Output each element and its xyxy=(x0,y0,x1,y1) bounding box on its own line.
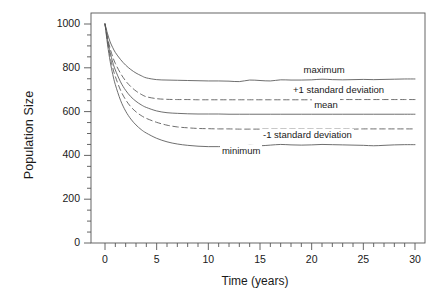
axes-layer xyxy=(84,13,425,250)
population-simulation-chart: Population Size Time (years) 02004006008… xyxy=(0,0,440,301)
series-line-maximum xyxy=(105,24,415,82)
x-axis-tick-label: 0 xyxy=(85,253,125,265)
x-axis-tick-label: 15 xyxy=(240,253,280,265)
y-axis-title: Population Size xyxy=(22,55,36,215)
x-axis-tick-label: 10 xyxy=(188,253,228,265)
x-axis-tick-label: 5 xyxy=(137,253,177,265)
series-label-1-standard-deviation: +1 standard deviation xyxy=(291,84,386,95)
plot-frame xyxy=(91,13,425,243)
y-axis-tick-label: 600 xyxy=(36,105,80,117)
x-axis-tick-label: 20 xyxy=(292,253,332,265)
x-axis-tick-label: 30 xyxy=(395,253,435,265)
series-line-mean xyxy=(105,24,415,114)
series-label-minimum: minimum xyxy=(220,145,263,156)
y-axis-tick-label: 800 xyxy=(36,61,80,73)
y-axis-tick-label: 0 xyxy=(36,236,80,248)
y-axis-tick-label: 1000 xyxy=(36,17,80,29)
y-axis-tick-label: 200 xyxy=(36,192,80,204)
y-axis-tick-label: 400 xyxy=(36,148,80,160)
series-label-maximum: maximum xyxy=(302,64,347,75)
series-line-1-standard-deviation xyxy=(105,24,415,129)
series-label-1-standard-deviation: -1 standard deviation xyxy=(261,129,354,140)
x-axis-tick-label: 25 xyxy=(343,253,383,265)
series-label-mean: mean xyxy=(312,99,340,110)
x-axis-title: Time (years) xyxy=(175,274,335,288)
